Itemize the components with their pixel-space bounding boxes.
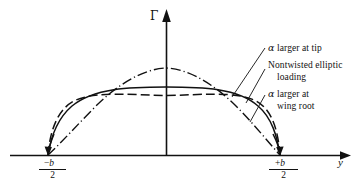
circulation-distribution-figure: α larger at tip Nontwisted ellipticloadi… [0,0,360,191]
annotation-nontwisted-line1: Nontwisted elliptic [268,60,342,70]
axes-group [10,9,351,160]
tip-marker-group [45,134,284,156]
y-axis-label-gamma: Γ [150,9,158,23]
leader-line-nontwisted-elliptic-loading [246,69,265,103]
annotation-alpha-larger-at-root-line2: wing root [268,101,315,113]
tick-right-numerator: b [280,158,285,168]
curve-alpha-larger-at-tip [48,94,280,155]
curves-group [48,68,280,155]
tick-left-numerator-row: −b [32,158,66,168]
annotation-alpha-larger-at-root-line1: larger at [275,89,310,99]
tick-right-denominator: 2 [262,170,298,180]
x-axis-label-y: y [338,156,343,168]
annotation-nontwisted-elliptic-loading: Nontwisted ellipticloading [268,60,342,83]
leader-lines-group [232,48,265,122]
tick-right-numerator-row: +b [262,158,298,168]
annotation-nontwisted-line2: loading [268,72,342,84]
tick-label-left-wing-tip: −b 2 [32,158,66,180]
tick-left-denominator: 2 [32,170,66,180]
annotation-alpha-larger-at-tip-line1: larger at tip [275,43,322,53]
tick-left-numerator: b [49,158,54,168]
curve-alpha-larger-at-wing-root [48,68,280,155]
annotation-alpha-larger-at-tip: α larger at tip [268,42,322,55]
vertical-axis-arrowhead [162,9,171,22]
annotation-alpha-larger-at-wing-root: α larger atwing root [268,88,315,112]
tick-label-right-wing-tip: +b 2 [262,158,298,180]
leader-line-alpha-larger-at-tip [232,48,265,97]
